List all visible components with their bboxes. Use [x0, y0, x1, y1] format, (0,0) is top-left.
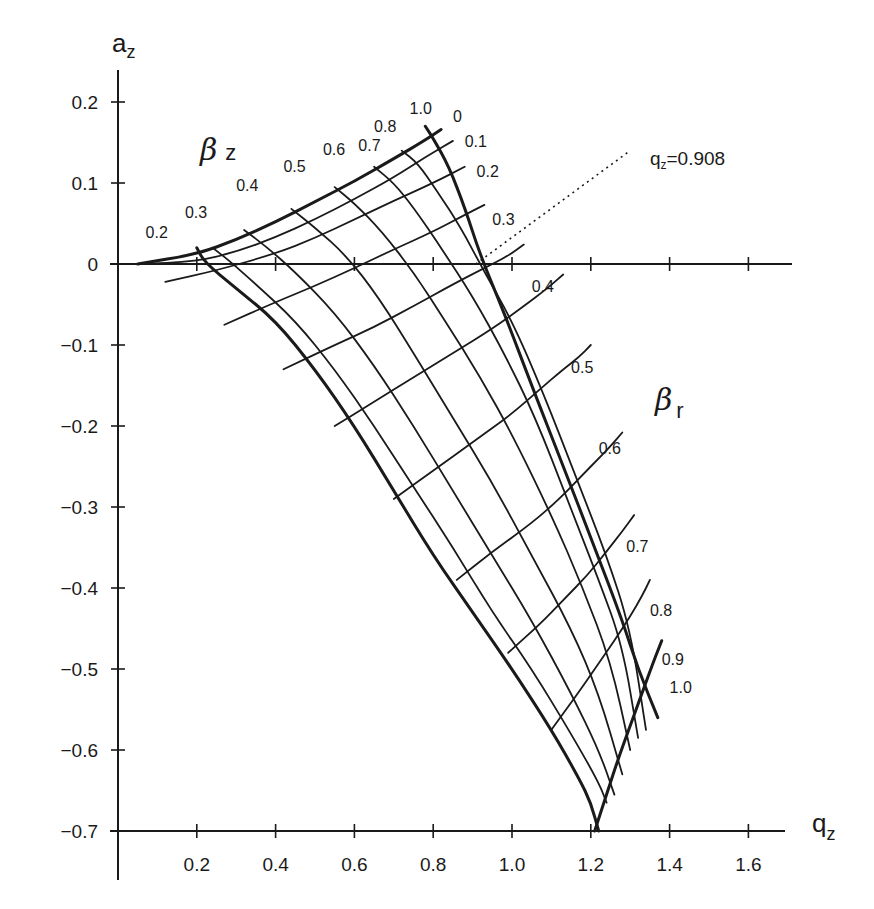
beta-z-family-title: βz: [199, 132, 236, 167]
beta-z-label: 0.5: [283, 158, 305, 175]
beta-z-label: 0.2: [146, 224, 168, 241]
beta-z-label: 0.3: [185, 204, 207, 221]
beta-z-curve-0-3: [213, 248, 607, 803]
beta-r-curve-0: [138, 130, 441, 265]
beta-r-family-title: βr: [654, 382, 684, 423]
beta-z-label: 0.4: [236, 177, 258, 194]
qz-annotation: qz=0.908: [650, 148, 725, 172]
y-axis-title: az: [112, 28, 135, 62]
x-tick-label: 0.6: [341, 854, 367, 875]
dotted-leader-line: [476, 151, 630, 264]
annotations: qz=0.908: [476, 148, 725, 264]
beta-r-curve-1-0: [595, 641, 662, 831]
x-tick-label: 1.2: [578, 854, 604, 875]
beta-z-curve-0-2: [197, 248, 599, 831]
beta-r-label: 0.3: [492, 211, 514, 228]
x-tick-label: 1.0: [499, 854, 525, 875]
x-tick-label: 1.6: [735, 854, 761, 875]
x-axis-title: qz: [812, 808, 835, 844]
y-tick-label: 0.1: [72, 173, 98, 194]
beta-r-label: 1.0: [670, 679, 692, 696]
y-tick-label: 0: [87, 254, 98, 275]
beta-r-label: 0.1: [465, 133, 487, 150]
beta-r-label: 0.5: [571, 359, 593, 376]
x-tick-label: 0.2: [184, 854, 210, 875]
beta-r-label: 0.6: [599, 440, 621, 457]
y-tick-label: −0.1: [60, 335, 98, 356]
beta-z-label: 0.6: [323, 141, 345, 158]
y-tick-label: −0.3: [60, 497, 98, 518]
y-tick-label: −0.5: [60, 659, 98, 680]
x-tick-label: 0.4: [262, 854, 289, 875]
y-tick-label: −0.7: [60, 821, 98, 842]
y-tick-label: −0.6: [60, 740, 98, 761]
beta-z-label: 0.7: [358, 137, 380, 154]
y-tick-label: −0.4: [60, 578, 98, 599]
beta-r-label: 0.4: [532, 278, 554, 295]
beta-r-label: 0.9: [662, 651, 684, 668]
beta-z-label: 1.0: [410, 100, 432, 117]
y-tick-label: −0.2: [60, 416, 98, 437]
beta-r-label: 0.7: [626, 538, 648, 555]
x-tick-label: 0.8: [420, 854, 446, 875]
beta-r-label: 0: [453, 108, 462, 125]
curve-grid: [138, 126, 662, 831]
beta-z-label: 0.8: [374, 118, 396, 135]
y-tick-label: 0.2: [72, 92, 98, 113]
beta-r-label: 0.2: [477, 163, 499, 180]
nomogram-chart: 0.20.10−0.1−0.2−0.3−0.4−0.5−0.6−0.70.20.…: [0, 0, 874, 909]
beta-r-label: 0.8: [650, 602, 672, 619]
x-tick-label: 1.4: [656, 854, 683, 875]
